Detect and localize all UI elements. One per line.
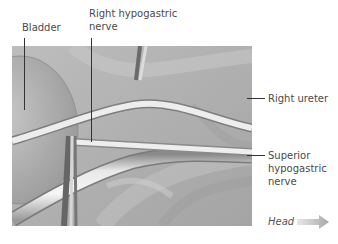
superior-hypogastric-label-line2: hypogastric xyxy=(268,163,327,175)
pelvic-anatomy-illustration xyxy=(12,46,252,226)
superior-hypogastric-label-line3: nerve xyxy=(268,176,297,188)
right-ureter-leader-line xyxy=(247,98,265,99)
right-hypogastric-label-line1: Right hypogastric xyxy=(89,8,177,20)
superior-hypogastric-leader-line xyxy=(247,155,265,156)
right-hypogastric-leader-line xyxy=(91,38,92,142)
right-hypogastric-label-line2: nerve xyxy=(89,21,118,33)
bladder-label: Bladder xyxy=(22,22,61,34)
arrow-right-icon xyxy=(297,215,329,229)
anatomy-drawing xyxy=(12,46,252,226)
right-ureter-label: Right ureter xyxy=(268,93,328,105)
orientation-head-label: Head xyxy=(268,216,294,227)
bladder-leader-line xyxy=(24,38,25,110)
superior-hypogastric-label-line1: Superior xyxy=(268,150,310,162)
